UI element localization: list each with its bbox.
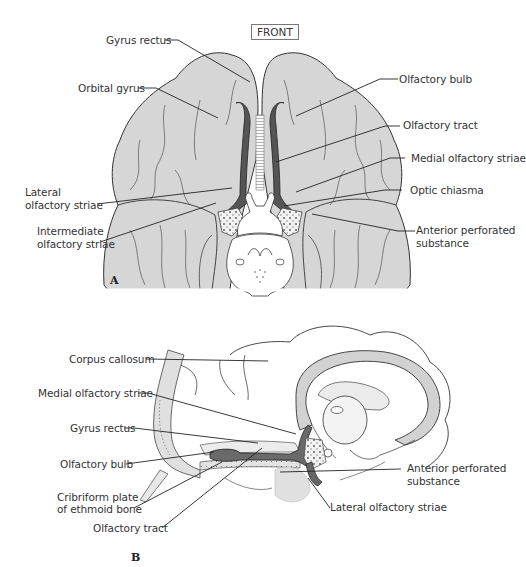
label-lateral-striae-a-line1: Lateral [25,186,61,199]
thalamus [323,396,367,444]
panel-b-sagittal [140,326,450,502]
label-cribriform-line2: of ethmoid bone [57,503,142,516]
label-lateral-striae-b: Lateral olfactory striae [330,501,447,514]
label-anterior-perforated-b-line1: Anterior perforated [407,462,506,475]
label-anterior-perforated-a-line2: substance [416,237,469,250]
label-optic-chiasma: Optic chiasma [410,184,484,197]
frontal-bone [154,350,200,478]
label-lateral-striae-a-line2: olfactory striae [25,199,103,212]
label-gyrus-rectus-a: Gyrus rectus [106,34,172,47]
label-olfactory-bulb-a: Olfactory bulb [399,73,472,86]
label-intermediate-striae-line2: olfactory striae [37,238,115,251]
label-corpus-callosum: Corpus callosum [69,353,155,366]
label-orbital-gyrus: Orbital gyrus [78,82,145,95]
panel-a-letter: A [110,274,119,287]
brainstem [227,234,294,296]
label-gyrus-rectus-b: Gyrus rectus [70,422,136,435]
label-anterior-perforated-b-line2: substance [407,475,460,488]
panel-b-letter: B [131,551,140,564]
label-olfactory-tract-b: Olfactory tract [93,522,168,535]
label-medial-striae-b: Medial olfactory striae [38,387,153,400]
label-olfactory-bulb-b: Olfactory bulb [60,458,133,471]
panel-a-brain-base [104,53,412,296]
label-intermediate-striae-line1: Intermediate [37,225,104,238]
label-medial-striae-a: Medial olfactory striae [411,152,526,165]
label-olfactory-tract-a: Olfactory tract [403,119,478,132]
label-anterior-perforated-a-line1: Anterior perforated [416,224,515,237]
front-orientation-label: FRONT [251,24,299,40]
